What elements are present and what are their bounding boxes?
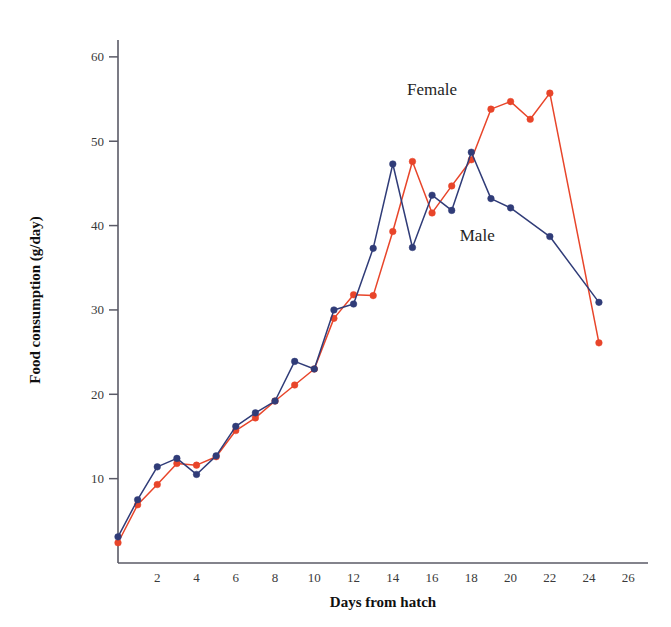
x-tick-label: 22	[543, 570, 556, 585]
data-series-layer	[115, 90, 603, 546]
data-point-female	[291, 382, 298, 389]
x-axis-title: Days from hatch	[330, 594, 437, 610]
data-point-male	[252, 410, 259, 417]
y-tick-label: 40	[91, 218, 104, 233]
data-point-female	[448, 183, 455, 190]
data-point-male	[488, 195, 495, 202]
data-point-female	[193, 462, 200, 469]
y-tick-label: 10	[91, 471, 104, 486]
data-point-male	[468, 149, 475, 156]
data-point-male	[174, 455, 181, 462]
food-consumption-line-chart: 102030405060 2468101214161820222426 Days…	[0, 0, 671, 627]
y-tick-label: 30	[91, 302, 104, 317]
y-tick-label: 60	[91, 49, 104, 64]
data-point-male	[331, 307, 338, 314]
x-tick-label: 10	[308, 570, 321, 585]
data-point-female	[115, 539, 122, 546]
chart-axes	[118, 40, 648, 563]
x-axis-ticks: 2468101214161820222426	[154, 570, 635, 585]
series-line-male	[118, 152, 599, 537]
data-point-female	[488, 106, 495, 113]
y-tick-label: 50	[91, 134, 104, 149]
x-tick-label: 24	[583, 570, 597, 585]
data-point-male	[134, 496, 141, 503]
data-point-male	[370, 245, 377, 252]
series-label-male: Male	[460, 226, 495, 245]
series-male	[115, 149, 603, 540]
data-point-male	[507, 205, 514, 212]
data-point-male	[448, 207, 455, 214]
data-point-female	[370, 292, 377, 299]
data-point-male	[429, 192, 436, 199]
series-female	[115, 90, 603, 546]
data-point-male	[350, 301, 357, 308]
x-tick-label: 20	[504, 570, 517, 585]
x-tick-label: 18	[465, 570, 478, 585]
data-point-male	[272, 398, 279, 405]
data-point-male	[115, 534, 122, 541]
data-point-female	[409, 158, 416, 165]
data-point-male	[547, 233, 554, 240]
data-point-female	[507, 98, 514, 105]
x-tick-label: 8	[272, 570, 279, 585]
data-point-female	[429, 210, 436, 217]
data-point-male	[213, 453, 220, 460]
y-axis-title: Food consumption (g/day)	[27, 216, 44, 384]
data-point-male	[154, 464, 161, 471]
x-tick-label: 4	[193, 570, 200, 585]
data-point-female	[154, 481, 161, 488]
chart-figure: 102030405060 2468101214161820222426 Days…	[0, 0, 671, 627]
data-point-female	[390, 228, 397, 235]
data-point-male	[409, 244, 416, 251]
data-point-male	[232, 423, 239, 430]
data-point-male	[596, 299, 603, 306]
x-tick-label: 14	[386, 570, 400, 585]
y-tick-label: 20	[91, 387, 104, 402]
x-tick-label: 26	[622, 570, 636, 585]
data-point-female	[547, 90, 554, 97]
x-tick-label: 6	[233, 570, 240, 585]
series-line-female	[118, 93, 599, 543]
data-point-male	[193, 471, 200, 478]
series-annotations: FemaleMale	[407, 80, 495, 245]
x-tick-label: 2	[154, 570, 161, 585]
x-tick-label: 12	[347, 570, 360, 585]
y-axis-ticks: 102030405060	[91, 49, 118, 486]
data-point-male	[311, 366, 318, 373]
data-point-male	[291, 358, 298, 365]
data-point-female	[527, 116, 534, 123]
data-point-female	[596, 340, 603, 347]
data-point-male	[390, 161, 397, 168]
series-label-female: Female	[407, 80, 457, 99]
x-tick-label: 16	[426, 570, 440, 585]
